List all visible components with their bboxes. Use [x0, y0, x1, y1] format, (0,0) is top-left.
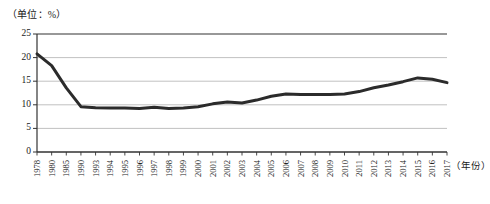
y-tick-label-10: 10: [5, 100, 31, 110]
x-tick-label-2008: 2008: [311, 140, 320, 180]
x-axis-caption: （年份）: [451, 161, 490, 172]
x-tick-label-1995: 1995: [121, 140, 130, 180]
x-tick-label-2004: 2004: [253, 140, 262, 180]
axis-lines-group: [37, 34, 447, 152]
x-tick-label-2006: 2006: [282, 140, 291, 180]
x-tick-label-1993: 1993: [92, 140, 101, 180]
x-tick-label-1980: 1980: [48, 140, 57, 180]
x-tick-label-2017: 2017: [443, 140, 452, 180]
gridlines-group: [37, 34, 447, 152]
x-tick-label-1997: 1997: [150, 140, 159, 180]
x-tick-label-2000: 2000: [194, 140, 203, 180]
x-tick-label-2005: 2005: [267, 140, 276, 180]
x-tick-label-2003: 2003: [238, 140, 247, 180]
line-chart: （单位：%） 0510152025 1978198019851990199319…: [0, 0, 490, 204]
x-tick-label-2016: 2016: [428, 140, 437, 180]
x-tick-label-2015: 2015: [414, 140, 423, 180]
y-axis-labels: 0510152025: [0, 0, 31, 204]
x-tick-label-1978: 1978: [33, 140, 42, 180]
x-tick-label-2002: 2002: [223, 140, 232, 180]
y-tick-label-20: 20: [5, 53, 31, 63]
x-tick-label-1998: 1998: [165, 140, 174, 180]
x-tick-label-1994: 1994: [106, 140, 115, 180]
x-tick-label-1996: 1996: [136, 140, 145, 180]
x-tick-label-2011: 2011: [355, 140, 364, 180]
x-tick-label-2001: 2001: [209, 140, 218, 180]
x-tick-label-2014: 2014: [399, 140, 408, 180]
x-tick-label-2009: 2009: [326, 140, 335, 180]
y-tick-label-15: 15: [5, 76, 31, 86]
x-tick-label-2013: 2013: [384, 140, 393, 180]
y-tick-label-5: 5: [5, 123, 31, 133]
plot-area: [37, 34, 447, 152]
x-tick-label-1990: 1990: [77, 140, 86, 180]
x-tick-label-2010: 2010: [341, 140, 350, 180]
x-tick-label-1985: 1985: [62, 140, 71, 180]
plot-svg: [37, 34, 447, 152]
x-axis-labels: 1978198019851990199319941995199619971998…: [37, 156, 447, 202]
x-tick-label-1999: 1999: [179, 140, 188, 180]
y-tick-label-25: 25: [5, 29, 31, 39]
x-tick-label-2007: 2007: [297, 140, 306, 180]
x-tick-label-2012: 2012: [370, 140, 379, 180]
y-tick-label-0: 0: [5, 147, 31, 157]
